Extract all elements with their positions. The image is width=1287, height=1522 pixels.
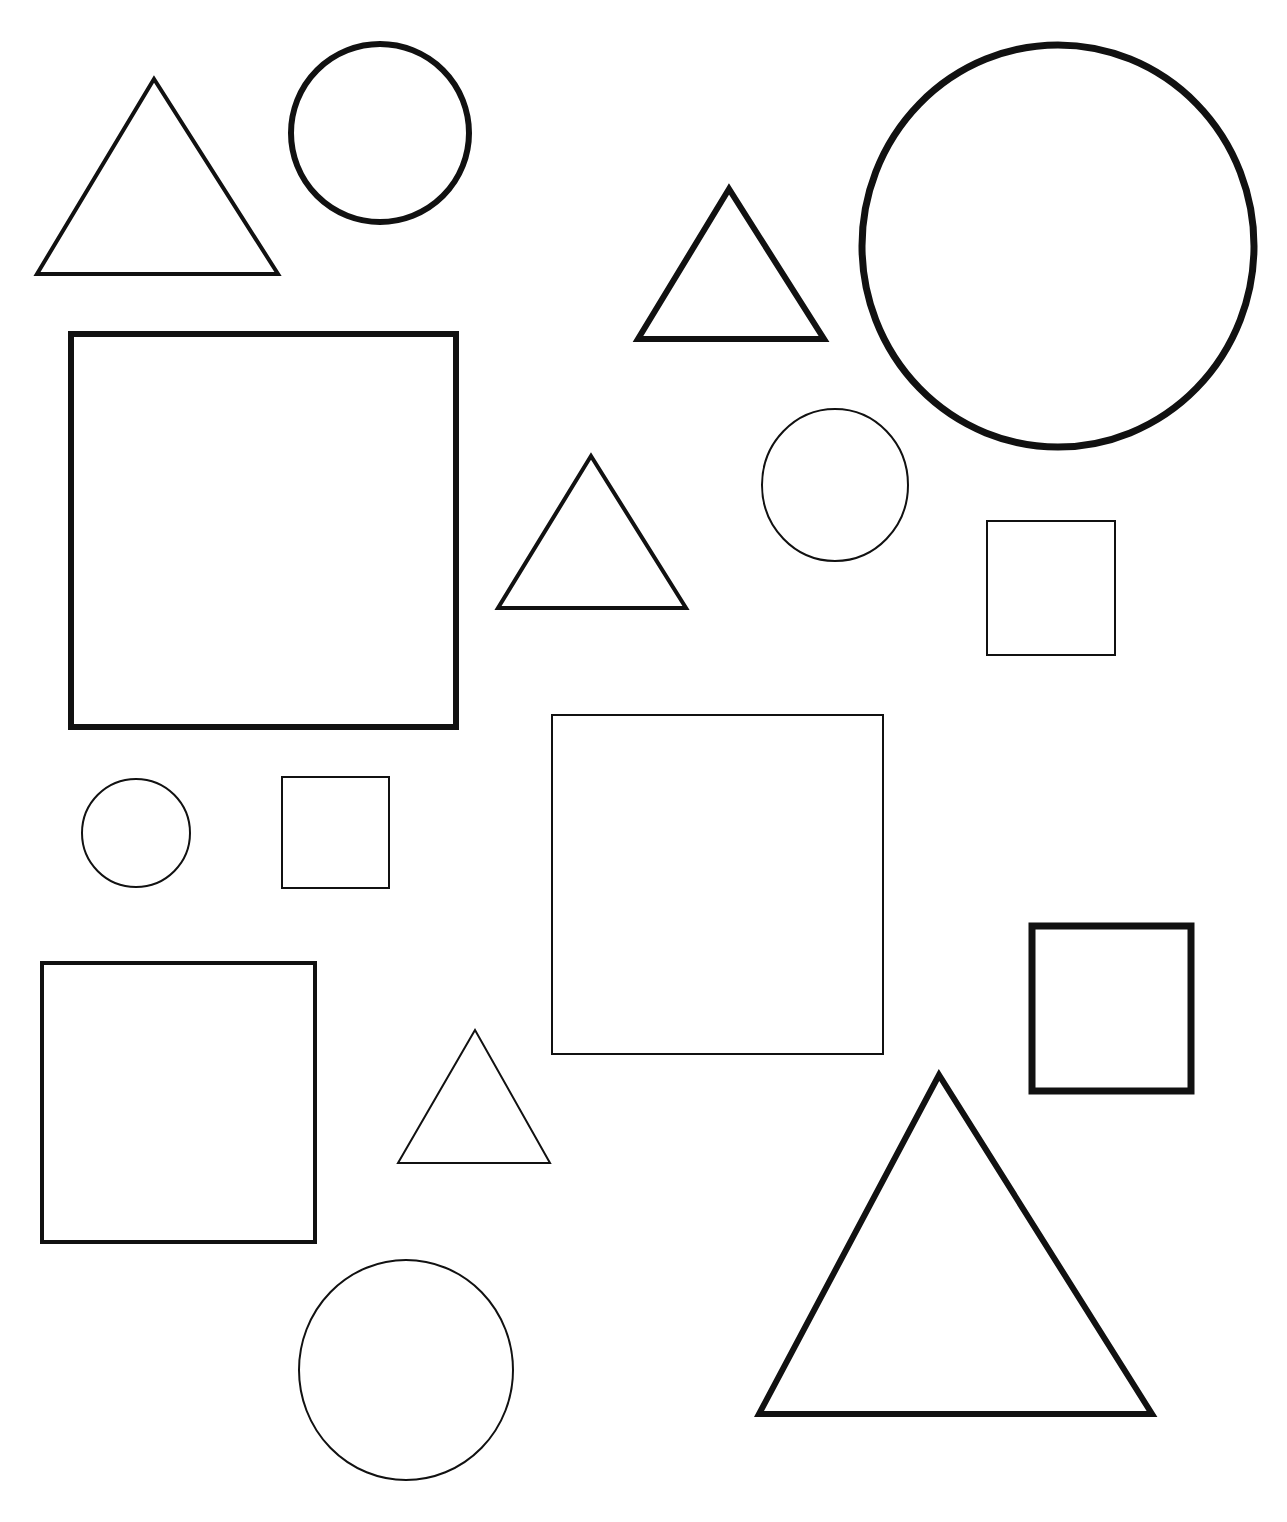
triangle-shape-4: [398, 1030, 550, 1163]
triangle-shape-5: [759, 1075, 1152, 1414]
circle-shape-2: [862, 45, 1254, 447]
square-shape-5: [42, 963, 315, 1242]
square-shape-4: [282, 777, 389, 888]
circle-shape-3: [762, 409, 908, 561]
triangle-shape-1: [37, 79, 278, 274]
square-shape-1: [71, 334, 456, 727]
circle-shape-5: [299, 1260, 513, 1480]
square-shape-3: [552, 715, 883, 1054]
triangle-shape-2: [638, 189, 824, 339]
circle-shape-1: [291, 44, 469, 222]
square-shape-6: [1032, 926, 1191, 1091]
square-shape-2: [987, 521, 1115, 655]
circle-shape-4: [82, 779, 190, 887]
shapes-canvas: [0, 0, 1287, 1522]
triangle-shape-3: [498, 456, 686, 608]
